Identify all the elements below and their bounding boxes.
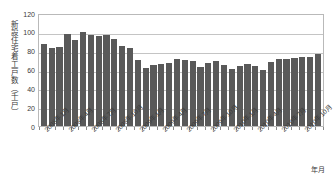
x-axis-tick-labels: 2008年1月2008年4月2008年7月2008年10月2009年1月2009… <box>38 128 328 174</box>
bar <box>41 44 47 126</box>
y-tick-label: 40 <box>27 86 35 93</box>
bar <box>96 36 102 126</box>
bar <box>229 69 235 126</box>
y-tick-label: 100 <box>23 29 35 36</box>
y-tick-label: 0 <box>31 124 35 131</box>
y-tick-label: 20 <box>27 105 35 112</box>
y-tick-label: 60 <box>27 67 35 74</box>
y-tick-label: 80 <box>27 48 35 55</box>
bar <box>307 57 313 126</box>
y-axis-tick-labels: 020406080100120 <box>17 0 37 182</box>
bar <box>119 46 125 126</box>
bar <box>213 61 219 126</box>
y-axis-title: 新設住宅着工戸数（千戸） <box>2 8 17 128</box>
bar <box>252 66 258 126</box>
bar <box>72 40 78 126</box>
y-tick-label: 120 <box>23 11 35 18</box>
bar <box>283 59 289 126</box>
x-axis-title: 年月 <box>311 166 325 174</box>
bar <box>49 48 55 126</box>
